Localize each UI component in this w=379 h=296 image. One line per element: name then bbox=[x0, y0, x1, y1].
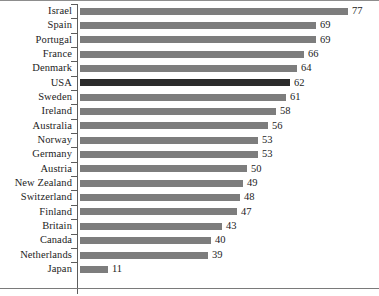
chart-top-border bbox=[0, 0, 379, 1]
bar bbox=[80, 36, 316, 43]
bar-row: Switzerland48 bbox=[0, 190, 379, 204]
value-axis-baseline bbox=[0, 288, 379, 289]
bar-track: 50 bbox=[80, 162, 379, 176]
bar-chart: Israel77Spain69Portugal69France66Denmark… bbox=[0, 0, 379, 296]
bar-track: 53 bbox=[80, 133, 379, 147]
axis-tick bbox=[71, 205, 78, 206]
bar-value-label: 48 bbox=[244, 192, 255, 203]
bar-row: USA62 bbox=[0, 76, 379, 90]
bar-track: 48 bbox=[80, 190, 379, 204]
bar-value-label: 50 bbox=[251, 164, 262, 175]
bar-row: Spain69 bbox=[0, 18, 379, 32]
category-label: New Zealand bbox=[0, 178, 75, 189]
bar-track: 64 bbox=[80, 61, 379, 75]
bar-row: France66 bbox=[0, 47, 379, 61]
bar bbox=[80, 79, 290, 86]
axis-tick bbox=[71, 219, 78, 220]
category-label: Spain bbox=[0, 20, 75, 31]
bar-row: Israel77 bbox=[0, 4, 379, 18]
bar bbox=[80, 151, 258, 158]
category-label: Denmark bbox=[0, 63, 75, 74]
category-label: Japan bbox=[0, 264, 75, 275]
bar-value-label: 56 bbox=[272, 121, 283, 132]
axis-tick bbox=[71, 18, 78, 19]
bar-row: Britain43 bbox=[0, 219, 379, 233]
axis-tick bbox=[71, 47, 78, 48]
bar bbox=[80, 65, 297, 72]
bar-track: 39 bbox=[80, 248, 379, 262]
category-label: Portugal bbox=[0, 35, 75, 46]
category-label: Ireland bbox=[0, 106, 75, 117]
bar-value-label: 58 bbox=[280, 106, 291, 117]
bar-value-label: 53 bbox=[262, 149, 273, 160]
category-label: Switzerland bbox=[0, 192, 75, 203]
bar-row: Netherlands39 bbox=[0, 248, 379, 262]
bar-track: 53 bbox=[80, 147, 379, 161]
bar-track: 69 bbox=[80, 18, 379, 32]
bar bbox=[80, 208, 237, 215]
category-label: Israel bbox=[0, 6, 75, 17]
bar-row: Denmark64 bbox=[0, 61, 379, 75]
bar-row: Japan11 bbox=[0, 262, 379, 276]
bar bbox=[80, 180, 243, 187]
category-label: France bbox=[0, 49, 75, 60]
category-label: Canada bbox=[0, 235, 75, 246]
bar bbox=[80, 122, 268, 129]
bar bbox=[80, 266, 108, 273]
bar-track: 62 bbox=[80, 76, 379, 90]
bar-value-label: 11 bbox=[112, 264, 122, 275]
bar-value-label: 49 bbox=[247, 178, 258, 189]
bar-track: 66 bbox=[80, 47, 379, 61]
bar-row: Portugal69 bbox=[0, 33, 379, 47]
bar-value-label: 62 bbox=[294, 78, 305, 89]
bar bbox=[80, 22, 316, 29]
bar-value-label: 69 bbox=[320, 20, 331, 31]
bar-track: 49 bbox=[80, 176, 379, 190]
bar-track: 43 bbox=[80, 219, 379, 233]
axis-tick bbox=[71, 4, 78, 5]
axis-tick bbox=[71, 248, 78, 249]
bar bbox=[80, 137, 258, 144]
category-label: Finland bbox=[0, 207, 75, 218]
bar-track: 47 bbox=[80, 205, 379, 219]
bar-value-label: 53 bbox=[262, 135, 273, 146]
bar-value-label: 77 bbox=[352, 6, 363, 17]
bar-row: Ireland58 bbox=[0, 104, 379, 118]
bar-value-label: 64 bbox=[301, 63, 312, 74]
bar-row: Austria50 bbox=[0, 162, 379, 176]
bar-value-label: 43 bbox=[226, 221, 237, 232]
bar bbox=[80, 223, 222, 230]
bar-row: Australia56 bbox=[0, 119, 379, 133]
category-label: Norway bbox=[0, 135, 75, 146]
bar-track: 58 bbox=[80, 104, 379, 118]
axis-tick bbox=[71, 190, 78, 191]
category-label: Germany bbox=[0, 149, 75, 160]
axis-tick bbox=[71, 234, 78, 235]
axis-tick bbox=[71, 133, 78, 134]
bar bbox=[80, 165, 247, 172]
category-label: Australia bbox=[0, 121, 75, 132]
axis-tick bbox=[71, 262, 78, 263]
bar-row: Norway53 bbox=[0, 133, 379, 147]
bar-row: New Zealand49 bbox=[0, 176, 379, 190]
category-label: Austria bbox=[0, 164, 75, 175]
bar-track: 77 bbox=[80, 4, 379, 18]
axis-tick bbox=[71, 33, 78, 34]
bar bbox=[80, 8, 348, 15]
axis-tick bbox=[71, 176, 78, 177]
bar bbox=[80, 108, 276, 115]
bar-row: Finland47 bbox=[0, 205, 379, 219]
category-label: USA bbox=[0, 78, 75, 89]
axis-tick bbox=[71, 104, 78, 105]
category-label: Sweden bbox=[0, 92, 75, 103]
chart-plot-area: Israel77Spain69Portugal69France66Denmark… bbox=[0, 4, 379, 277]
axis-tick bbox=[71, 61, 78, 62]
axis-tick bbox=[71, 119, 78, 120]
bar-value-label: 69 bbox=[320, 35, 331, 46]
bar-row: Canada40 bbox=[0, 234, 379, 248]
axis-tick bbox=[71, 147, 78, 148]
bar bbox=[80, 237, 211, 244]
bar-value-label: 39 bbox=[212, 250, 223, 261]
bar bbox=[80, 194, 240, 201]
bar-row: Sweden61 bbox=[0, 90, 379, 104]
